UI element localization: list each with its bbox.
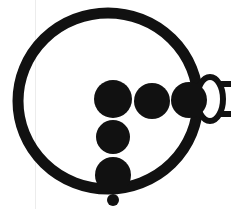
dot-h1	[94, 80, 132, 118]
diagram-figure	[0, 0, 231, 209]
dot-v2	[95, 157, 131, 193]
dot-h3	[171, 82, 207, 118]
figure-canvas	[0, 0, 231, 209]
dot-v1	[96, 120, 130, 154]
dot-h2	[134, 83, 170, 119]
small-bottom-dot	[107, 194, 119, 206]
